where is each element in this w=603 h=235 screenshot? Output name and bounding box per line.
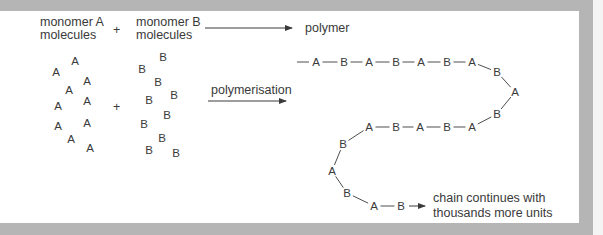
chain-unit-b: B <box>343 187 351 199</box>
monomer-a-molecule: A <box>86 142 94 154</box>
chain-unit-a: A <box>370 200 378 212</box>
polymerisation-label: polymerisation <box>211 83 292 97</box>
monomer-b-molecule: B <box>138 63 146 75</box>
monomer-a-molecule: A <box>52 66 60 78</box>
chain-unit-a: A <box>511 86 519 98</box>
chain-unit-a: A <box>365 56 373 68</box>
chain-bond <box>478 64 491 69</box>
chain-bond <box>348 131 363 141</box>
chain-bond <box>334 150 340 165</box>
chain-bond <box>501 97 511 109</box>
monomer-b-molecule: B <box>172 147 180 159</box>
monomer-a-molecule: A <box>83 117 91 129</box>
chain-unit-a: A <box>365 121 373 133</box>
chain-unit-b: B <box>443 56 451 68</box>
chain-bond <box>353 196 368 203</box>
monomer-a-label-line2: molecules <box>40 28 96 42</box>
polymer-chain-bonds <box>323 62 511 206</box>
chain-note-line1: chain continues with <box>433 191 546 205</box>
chain-unit-b: B <box>493 66 501 78</box>
monomer-a-molecule: A <box>83 95 91 107</box>
chain-unit-a: A <box>312 56 320 68</box>
polymerisation-diagram: monomer A molecules + monomer B molecule… <box>0 0 603 235</box>
monomer-b-molecule: B <box>154 76 162 88</box>
monomer-b-molecule: B <box>159 51 167 63</box>
chain-unit-b: B <box>392 121 400 133</box>
chain-unit-b: B <box>340 56 348 68</box>
monomer-b-label: monomer B <box>136 15 201 29</box>
chain-unit-a: A <box>468 56 476 68</box>
chain-unit-b: B <box>392 56 400 68</box>
monomer-b-label-line2: molecules <box>136 28 192 42</box>
polymer-chain: ABABABABABABABABABAB <box>312 56 519 212</box>
plus-sign-reaction: + <box>113 100 120 114</box>
monomer-b-molecule: B <box>145 94 153 106</box>
monomer-b-cluster: BBBBBBBBBB <box>138 51 180 159</box>
monomer-a-label: monomer A <box>40 15 105 29</box>
monomer-a-molecule: A <box>71 55 79 67</box>
monomer-a-cluster: AAAAAAAAAA <box>52 55 94 154</box>
chain-unit-a: A <box>328 165 336 177</box>
monomer-a-molecule: A <box>83 75 91 87</box>
monomer-b-molecule: B <box>145 144 153 156</box>
monomer-a-molecule: A <box>54 100 62 112</box>
monomer-b-molecule: B <box>170 89 178 101</box>
chain-unit-a: A <box>416 121 424 133</box>
monomer-a-molecule: A <box>67 133 75 145</box>
monomer-a-molecule: A <box>65 84 73 96</box>
chain-bond <box>336 176 344 187</box>
chain-unit-b: B <box>443 121 451 133</box>
chain-unit-b: B <box>397 200 405 212</box>
chain-unit-b: B <box>493 108 501 120</box>
chain-bond <box>501 77 510 87</box>
polymer-label: polymer <box>305 21 349 35</box>
monomer-b-molecule: B <box>140 118 148 130</box>
plus-sign-header: + <box>113 23 120 37</box>
chain-bond <box>478 117 491 124</box>
monomer-b-molecule: B <box>163 109 171 121</box>
chain-unit-a: A <box>417 56 425 68</box>
chain-unit-b: B <box>339 138 347 150</box>
monomer-a-molecule: A <box>54 120 62 132</box>
monomer-b-molecule: B <box>158 132 166 144</box>
chain-unit-a: A <box>468 121 476 133</box>
chain-note-line2: thousands more units <box>433 206 553 220</box>
